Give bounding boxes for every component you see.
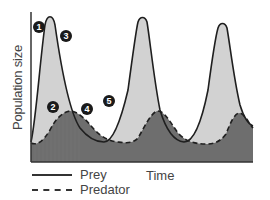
legend-label-prey: Prey [80, 167, 107, 182]
annotation-marker-4: 4 [81, 103, 93, 115]
legend-label-predator: Predator [80, 182, 130, 197]
dashed-line-swatch-icon [32, 189, 72, 191]
annotation-marker-5: 5 [103, 95, 115, 107]
legend-item-predator: Predator [32, 182, 130, 197]
annotation-marker-3: 3 [60, 30, 72, 42]
legend-item-prey: Prey [32, 167, 107, 182]
annotation-marker-1: 1 [33, 21, 45, 33]
y-axis-label: Population size [10, 33, 25, 143]
annotation-marker-2: 2 [47, 101, 59, 113]
x-axis-label: Time [146, 168, 174, 183]
solid-line-swatch-icon [32, 174, 72, 176]
